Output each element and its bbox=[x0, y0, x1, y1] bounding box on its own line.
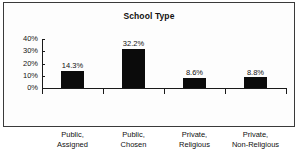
x-axis-category-label: Public, Assigned bbox=[57, 130, 88, 131]
y-axis-tick-label: 30% bbox=[23, 46, 38, 55]
plot-area: 40% 30% 20% 10% 0% 14.3% bbox=[42, 37, 288, 89]
bar-value-label: 8.8% bbox=[247, 68, 264, 77]
y-axis-tick-label: 40% bbox=[23, 34, 38, 43]
bar-public-assigned[interactable] bbox=[61, 71, 84, 89]
chart-frame: School Type 40% 30% 20% 10% 0% bbox=[3, 2, 295, 127]
x-axis-divider bbox=[286, 89, 287, 94]
x-axis-divider bbox=[103, 89, 104, 94]
y-axis-tick-label: 20% bbox=[23, 59, 38, 68]
bar-private-religious[interactable] bbox=[183, 78, 206, 89]
x-axis-category-label: Private, Religious bbox=[179, 130, 210, 131]
y-axis-tick-mark bbox=[42, 51, 45, 52]
x-axis-divider bbox=[164, 89, 165, 94]
y-axis-tick-mark bbox=[42, 39, 45, 40]
x-axis-category-label: Public, Chosen bbox=[121, 130, 147, 131]
y-axis-tick-mark bbox=[42, 76, 45, 77]
x-axis-category-line1: Public, bbox=[121, 130, 147, 131]
bar-value-label: 8.6% bbox=[186, 68, 203, 77]
bar-value-label: 32.2% bbox=[123, 39, 144, 48]
x-axis-category-line1: Private, bbox=[232, 130, 279, 131]
x-axis-category-line1: Private, bbox=[179, 130, 210, 131]
x-axis-category-label: Private, Non-Religious bbox=[232, 130, 279, 131]
x-axis-divider bbox=[225, 89, 226, 94]
y-axis-tick-mark bbox=[42, 64, 45, 65]
x-axis-divider bbox=[42, 89, 43, 94]
y-axis-tick-label: 0% bbox=[27, 83, 38, 92]
bar-private-non-religious[interactable] bbox=[244, 77, 267, 88]
bar-value-label: 14.3% bbox=[62, 61, 83, 70]
bar-public-chosen[interactable] bbox=[122, 49, 145, 88]
y-axis-tick-label: 10% bbox=[23, 71, 38, 80]
chart-title: School Type bbox=[4, 11, 294, 21]
x-axis-category-line1: Public, bbox=[57, 130, 88, 131]
